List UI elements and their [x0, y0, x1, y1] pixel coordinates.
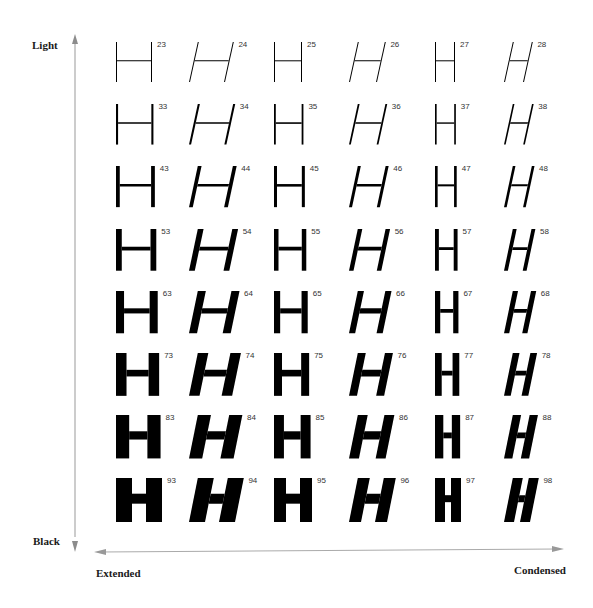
weight-number-label: 48 — [539, 164, 548, 173]
glyph-cell: 95 — [274, 478, 342, 522]
glyph-crossbar — [445, 495, 451, 502]
glyph-crossbar — [364, 493, 380, 503]
glyph-h — [116, 291, 160, 333]
glyph-right-stem — [523, 42, 533, 82]
glyph-cell: 97 — [435, 478, 491, 522]
weight-number-label: 43 — [160, 164, 169, 173]
glyph-h — [504, 353, 539, 396]
weight-number-label: 55 — [311, 227, 320, 236]
glyph-right-stem — [451, 478, 461, 522]
glyph-left-stem — [189, 42, 199, 82]
glyph-cell: 88 — [504, 415, 568, 458]
glyph-h — [349, 166, 391, 207]
glyph-cell: 25 — [274, 42, 332, 82]
glyph-cell: 96 — [349, 478, 426, 522]
glyph-h — [274, 353, 311, 396]
weight-number-label: 77 — [464, 351, 473, 360]
weight-number-label: 98 — [543, 476, 552, 485]
glyph-h — [189, 104, 237, 145]
glyph-cell: 74 — [189, 353, 271, 396]
glyph-left-stem — [189, 104, 200, 145]
glyph-cell: 48 — [504, 166, 565, 207]
glyph-cell: 37 — [435, 104, 486, 145]
glyph-left-stem — [116, 291, 124, 333]
weight-number-label: 33 — [158, 102, 167, 111]
weight-number-label: 58 — [540, 227, 549, 236]
glyph-h — [504, 229, 537, 271]
glyph-cell: 67 — [435, 291, 488, 333]
glyph-left-stem — [274, 42, 275, 82]
glyph-crossbar — [438, 185, 454, 187]
glyph-cell: 53 — [116, 229, 186, 271]
glyph-cell: 26 — [349, 42, 416, 82]
weight-number-label: 66 — [396, 289, 405, 298]
glyph-right-stem — [151, 229, 157, 271]
glyph-left-stem — [435, 229, 439, 271]
glyph-cell: 93 — [116, 478, 192, 522]
glyph-cell: 28 — [504, 42, 563, 82]
glyph-right-stem — [376, 104, 387, 145]
glyph-crossbar — [354, 60, 380, 61]
glyph-left-stem — [116, 166, 120, 207]
glyph-left-stem — [435, 166, 438, 207]
glyph-right-stem — [151, 166, 155, 207]
glyph-crossbar — [275, 60, 301, 61]
weight-number-label: 73 — [164, 351, 173, 360]
weight-number-label: 35 — [308, 102, 317, 111]
glyph-right-stem — [453, 291, 458, 333]
glyph-right-stem — [523, 104, 533, 145]
glyph-left-stem — [504, 104, 514, 145]
glyph-h — [274, 166, 307, 207]
glyph-crossbar — [277, 184, 302, 187]
glyph-crossbar — [361, 370, 382, 377]
glyph-crossbar — [356, 184, 381, 187]
weight-number-label: 56 — [395, 227, 404, 236]
glyph-cell: 24 — [189, 42, 264, 82]
glyph-h — [274, 42, 304, 82]
glyph-h — [349, 415, 396, 458]
weight-number-label: 84 — [247, 413, 256, 422]
glyph-cell: 58 — [504, 229, 565, 271]
weight-number-label: 44 — [241, 164, 250, 173]
glyph-h — [189, 229, 240, 271]
glyph-cell: 47 — [435, 166, 487, 207]
glyph-left-stem — [274, 166, 277, 207]
glyph-right-stem — [151, 104, 153, 145]
glyph-crossbar — [516, 433, 526, 439]
glyph-cell: 33 — [116, 104, 183, 145]
weight-number-label: 76 — [398, 351, 407, 360]
glyph-cell: 86 — [349, 415, 424, 458]
glyph-right-stem — [224, 104, 235, 145]
glyph-cell: 44 — [189, 166, 267, 207]
glyph-crossbar — [122, 246, 151, 250]
glyph-h — [116, 229, 158, 271]
glyph-h — [349, 42, 388, 82]
glyph-cell: 45 — [274, 166, 335, 207]
glyph-cell: 54 — [189, 229, 268, 271]
glyph-crossbar — [439, 247, 454, 250]
weight-number-label: 78 — [542, 351, 551, 360]
glyph-cell: 94 — [189, 478, 274, 522]
glyph-crossbar — [440, 309, 453, 313]
weight-number-label: 86 — [399, 413, 408, 422]
glyph-cell: 63 — [116, 291, 188, 333]
glyph-h — [116, 42, 154, 82]
glyph-h — [189, 42, 236, 82]
glyph-h — [435, 353, 461, 396]
glyph-left-stem — [274, 478, 286, 522]
glyph-crossbar — [279, 246, 302, 250]
glyph-h — [504, 415, 540, 458]
glyph-left-stem — [116, 415, 129, 458]
glyph-cell: 75 — [274, 353, 339, 396]
glyph-right-stem — [146, 478, 162, 522]
glyph-crossbar — [118, 122, 151, 124]
glyph-right-stem — [452, 415, 460, 458]
weight-number-label: 26 — [390, 40, 399, 49]
glyph-crossbar — [510, 123, 528, 124]
glyph-h — [116, 415, 163, 458]
glyph-cell: 34 — [189, 104, 265, 145]
glyph-crossbar — [129, 432, 147, 440]
glyph-crossbar — [286, 493, 300, 503]
glyph-h — [435, 478, 463, 522]
glyph-right-stem — [147, 415, 160, 458]
